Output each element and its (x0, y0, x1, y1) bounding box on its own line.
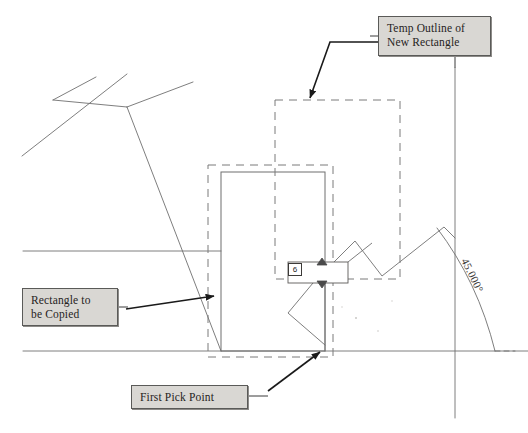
source-selection-outline (208, 165, 333, 357)
construction-line-cross-b (53, 77, 96, 100)
construction-line-spine (53, 100, 127, 107)
snap-leader-line (348, 243, 372, 262)
temp-outline-rectangle (275, 100, 400, 279)
callout-temp-outline: Temp Outline of New Rectangle (378, 16, 491, 56)
arrow-first-pick (268, 352, 320, 391)
coordinate-entry-field[interactable]: 6 (288, 263, 302, 276)
arrow-rectangle-copied (126, 296, 214, 309)
construction-line-cross-a (22, 74, 127, 156)
construction-line-rise (127, 82, 193, 107)
callout-rectangle-to-be-copied: Rectangle to be Copied (22, 288, 118, 326)
construction-line-leader-to-corner (127, 107, 221, 351)
source-rectangle (221, 172, 325, 351)
diagram-canvas: Temp Outline of New Rectangle Rectangle … (0, 0, 528, 433)
paper-speckles (341, 300, 392, 332)
angle-arc (437, 228, 495, 351)
cad-diagram-svg (0, 0, 528, 433)
zigzag-lower-profile (288, 283, 325, 345)
callout-first-pick-point: First Pick Point (131, 385, 248, 409)
